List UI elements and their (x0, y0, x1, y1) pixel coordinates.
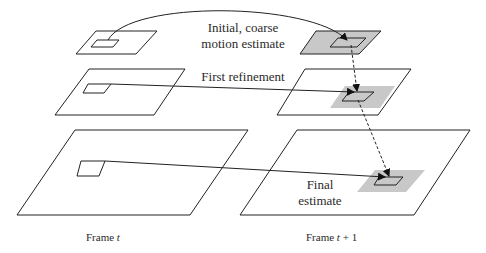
frame-t1-fine-search-region (357, 170, 425, 192)
label-frame-t: Frame t (86, 231, 121, 243)
label-first-refinement: First refinement (201, 69, 285, 84)
middle-motion-arrow (111, 84, 354, 92)
fine-motion-arrow (105, 161, 385, 177)
label-final-line2: estimate (298, 193, 342, 208)
label-frame-t-var: t (117, 231, 121, 243)
label-frame-t1: Frame t + 1 (306, 231, 357, 243)
frame-t1-fine-plane (240, 130, 470, 215)
label-initial-line2: motion estimate (201, 36, 285, 51)
hierarchical-motion-diagram: Initial, coarse motion estimate First re… (0, 0, 486, 253)
frame-t-fine-plane (17, 130, 248, 215)
frame-t-middle-plane (55, 69, 185, 115)
label-frame-t-prefix: Frame (86, 231, 117, 243)
frame-t-middle-block (83, 84, 111, 93)
label-final-line1: Final (307, 177, 334, 192)
propagation-arrow-middle-to-fine (358, 100, 389, 176)
label-frame-t1-prefix: Frame (306, 231, 337, 243)
label-initial-line1: Initial, coarse (208, 20, 279, 35)
label-frame-t1-suffix: + 1 (340, 231, 357, 243)
frame-t-fine-block (77, 161, 105, 176)
